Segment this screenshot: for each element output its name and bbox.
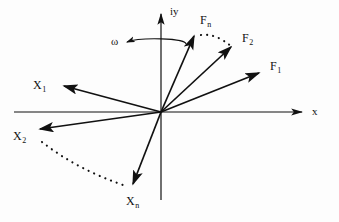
- y-axis-label: iy: [170, 6, 179, 17]
- dotted-arc-X2-Xn: [42, 142, 126, 186]
- vector-label-Xn: Xn: [126, 195, 139, 207]
- omega-label: ω: [111, 36, 118, 47]
- vector-X2: [40, 112, 161, 129]
- diagram-canvas: [0, 0, 339, 222]
- vector-diagram: iy x ω F1 F2 Fn X1 X2 Xn: [0, 0, 339, 222]
- omega-rotation-arc: [127, 39, 186, 44]
- vector-label-F2: F2: [242, 32, 253, 44]
- vector-X1: [64, 86, 161, 112]
- vector-label-Fn: Fn: [200, 14, 211, 26]
- dotted-arc-Fn-F2: [201, 35, 232, 47]
- vector-F2: [161, 47, 231, 112]
- vector-label-X1: X1: [33, 79, 46, 91]
- x-axis-label: x: [312, 106, 318, 117]
- vector-Xn: [133, 112, 161, 184]
- vector-label-X2: X2: [13, 130, 26, 142]
- vector-label-F1: F1: [270, 60, 281, 72]
